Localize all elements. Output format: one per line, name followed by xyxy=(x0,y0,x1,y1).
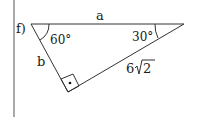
side-b-label: b xyxy=(37,54,45,69)
hypotenuse-label: 6 2 xyxy=(126,60,155,76)
svg-text:2: 2 xyxy=(143,61,151,76)
triangle-diagram: f) a 60° 30° b 6 2 xyxy=(0,0,197,117)
angle-arc-60 xyxy=(40,24,49,40)
problem-label: f) xyxy=(16,21,26,36)
right-angle-dot xyxy=(69,82,72,85)
svg-text:6: 6 xyxy=(126,61,134,76)
diagram-canvas: f) a 60° 30° b 6 2 xyxy=(0,0,197,117)
angle-arc-30 xyxy=(155,24,158,38)
angle-30-label: 30° xyxy=(132,30,153,44)
angle-60-label: 60° xyxy=(50,33,71,47)
side-a-label: a xyxy=(96,8,104,23)
